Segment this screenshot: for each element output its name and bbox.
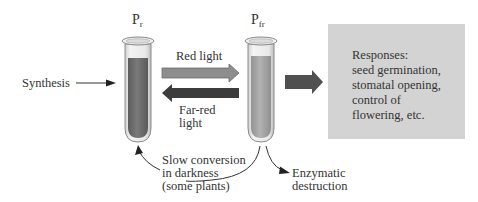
- pfr-test-tube: [245, 37, 277, 142]
- red-light-label: Red light: [176, 50, 222, 63]
- pfr-label: Pfr: [251, 12, 265, 29]
- enzymatic-destruction-arrow: [266, 146, 290, 174]
- red-light-arrow: [162, 64, 239, 82]
- pr-label: Pr: [132, 12, 143, 29]
- synthesis-arrow: [76, 80, 116, 87]
- enzymatic-line2: destruction: [292, 180, 348, 193]
- slow-conversion-line3: (some plants): [162, 180, 230, 193]
- far-red-light-arrow: [162, 84, 239, 102]
- responses-text: Responses: seed germination, stomatal op…: [352, 48, 441, 123]
- response-arrow: [285, 70, 323, 94]
- pr-test-tube: [122, 37, 154, 142]
- far-red-label-line2: light: [179, 117, 202, 130]
- synthesis-label: Synthesis: [22, 77, 70, 90]
